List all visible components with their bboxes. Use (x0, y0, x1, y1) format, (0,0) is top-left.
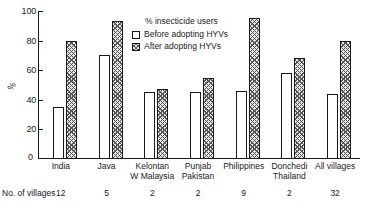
bar-group (281, 11, 305, 159)
x-category-label-line1: Punjab (185, 161, 211, 171)
legend-label-after: After adopting HYVs (144, 41, 221, 52)
y-tick-label-80: 80 (10, 37, 36, 46)
bar-before (144, 92, 155, 159)
bar-chart: % 20406080100 0 IndiaJavaKelontanW Malay… (0, 0, 366, 210)
x-category-label-line1: Donchedi (271, 161, 307, 171)
legend-swatch-after-icon (132, 43, 140, 51)
x-category-label-line1: All villages (315, 161, 355, 171)
x-category-label: All villages (304, 162, 366, 172)
y-tick-label-40: 40 (10, 96, 36, 105)
bar-group (236, 11, 260, 159)
village-count: 32 (304, 189, 366, 198)
legend-label-before: Before adopting HYVs (144, 29, 228, 40)
x-category-label-line1: Java (98, 161, 116, 171)
bar-before (236, 91, 247, 159)
legend-title: % insecticide users (132, 16, 228, 27)
bar-after (112, 21, 123, 159)
legend-item-after: After adopting HYVs (132, 41, 228, 52)
bar-before (53, 107, 64, 159)
bar-after (294, 58, 305, 159)
x-category-label-line1: Kelontan (135, 161, 169, 171)
y-tick-label-100: 100 (10, 7, 36, 16)
legend-item-before: Before adopting HYVs (132, 29, 228, 40)
x-category-label-line1: India (52, 161, 70, 171)
x-category-label-line2: Thailand (259, 172, 321, 182)
y-tick-label-20: 20 (10, 125, 36, 134)
bar-after (249, 18, 260, 159)
y-axis-zero-label: 0 (28, 153, 33, 162)
bar-group (99, 11, 123, 159)
bar-after (203, 78, 214, 159)
bar-group (327, 11, 351, 159)
bar-before (281, 73, 292, 159)
legend-swatch-before-icon (132, 31, 140, 39)
y-tick-label-60: 60 (10, 66, 36, 75)
bar-after (66, 41, 77, 159)
bar-before (99, 55, 110, 159)
bar-after (340, 41, 351, 159)
bar-after (157, 89, 168, 159)
legend: % insecticide users Before adopting HYVs… (132, 16, 228, 53)
bar-before (327, 94, 338, 159)
bar-group (53, 11, 77, 159)
bar-before (190, 92, 201, 159)
x-category-label-line2: Pakistan (167, 172, 229, 182)
y-axis-title: % (6, 81, 18, 92)
